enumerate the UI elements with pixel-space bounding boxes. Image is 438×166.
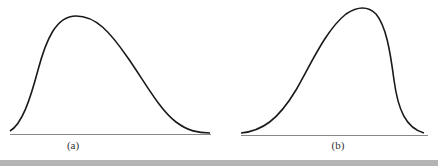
panel-label-b: (b) [318, 139, 358, 151]
curve-b [241, 8, 424, 133]
panel-a [10, 16, 211, 135]
panel-label-a: (a) [53, 139, 93, 151]
panel-b [241, 8, 428, 136]
curve-a [10, 16, 210, 133]
bottom-divider [0, 160, 438, 166]
